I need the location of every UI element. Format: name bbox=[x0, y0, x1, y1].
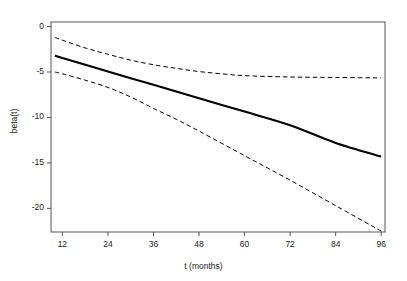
series-line bbox=[55, 56, 381, 157]
axis-frame bbox=[51, 22, 385, 232]
series-line bbox=[55, 72, 381, 231]
x-tick-label: 36 bbox=[138, 239, 168, 249]
series-layer bbox=[55, 37, 381, 231]
y-tick-label: -20 bbox=[14, 202, 44, 212]
chart-canvas: 0-5-10-15-20 1224364860728496 t (months)… bbox=[0, 0, 407, 281]
series-line bbox=[55, 37, 381, 77]
y-tick-label: 0 bbox=[14, 21, 44, 31]
x-tick-label: 12 bbox=[47, 239, 77, 249]
y-axis-label: beta(t) bbox=[9, 91, 19, 151]
y-tick-label: -5 bbox=[14, 66, 44, 76]
y-tick-label: -15 bbox=[14, 157, 44, 167]
x-tick-label: 48 bbox=[184, 239, 214, 249]
x-tick-label: 60 bbox=[230, 239, 260, 249]
x-axis-label: t (months) bbox=[0, 261, 407, 271]
x-tick-label: 24 bbox=[93, 239, 123, 249]
axis-ticks bbox=[47, 27, 381, 236]
x-tick-label: 72 bbox=[275, 239, 305, 249]
x-tick-label: 84 bbox=[321, 239, 351, 249]
x-tick-label: 96 bbox=[366, 239, 396, 249]
plot-border bbox=[51, 22, 385, 232]
